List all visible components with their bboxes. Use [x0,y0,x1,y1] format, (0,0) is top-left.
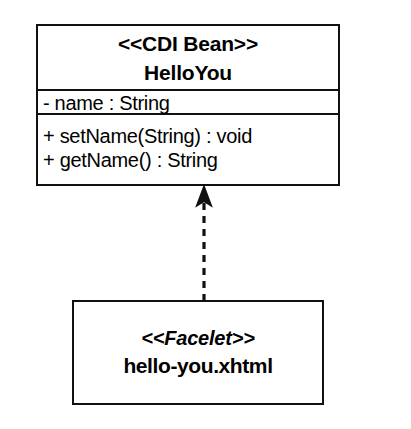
facelet-name: hello-you.xhtml [74,352,322,380]
dependency-arrow [186,184,222,302]
uml-class-hello-you[interactable]: <<CDI Bean>> HelloYou - name : String + … [36,24,340,186]
facelet-stereotype: <<Facelet>> [74,325,322,352]
class-operations-compartment: + setName(String) : void + getName() : S… [38,113,338,182]
class-operation-row: + getName() : String [38,148,338,172]
class-operation-row: + setName(String) : void [38,124,338,148]
facelet-header-compartment: <<Facelet>> hello-you.xhtml [74,302,322,380]
class-attribute-row: - name : String [38,91,338,115]
diagram-canvas: <<CDI Bean>> HelloYou - name : String + … [0,0,411,429]
class-stereotype: <<CDI Bean>> [38,29,338,58]
class-header-compartment: <<CDI Bean>> HelloYou [38,26,338,89]
class-attributes-compartment: - name : String [38,89,338,113]
class-name: HelloYou [38,58,338,87]
uml-class-hello-you-facelet[interactable]: <<Facelet>> hello-you.xhtml [72,300,324,405]
